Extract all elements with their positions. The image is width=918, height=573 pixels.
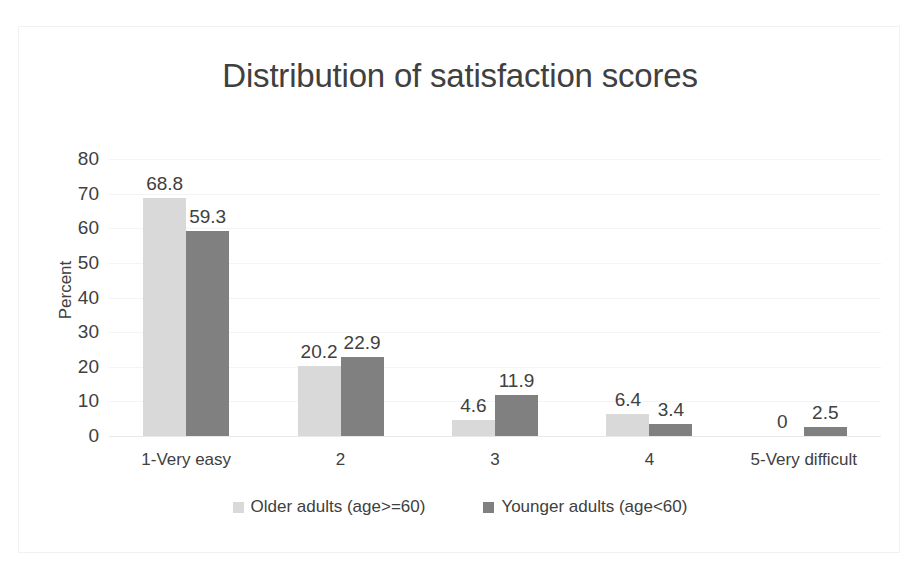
legend-label: Younger adults (age<60) [501,497,687,517]
bar-older[interactable]: 20.2 [298,366,341,436]
y-axis-tick-label: 80 [78,148,99,170]
legend-label: Older adults (age>=60) [251,497,426,517]
y-axis-tick-label: 70 [78,183,99,205]
bar-older[interactable]: 6.4 [606,414,649,436]
bar-value-label: 6.4 [615,389,641,411]
bar-group: 20.222.92 [263,159,417,436]
legend-item[interactable]: Younger adults (age<60) [483,497,687,517]
bar-value-label: 22.9 [344,332,381,354]
bar-younger[interactable]: 3.4 [649,424,692,436]
gridline [109,436,881,437]
bar-value-label: 20.2 [301,341,338,363]
bar-value-label: 68.8 [146,173,183,195]
y-axis-tick-label: 50 [78,252,99,274]
chart-legend: Older adults (age>=60)Younger adults (ag… [19,497,901,517]
bar-group: 4.611.93 [418,159,572,436]
bar-older[interactable]: 68.8 [143,198,186,436]
bar-younger[interactable]: 2.5 [804,427,847,436]
x-axis-category-label: 5-Very difficult [751,450,857,470]
legend-swatch-icon [233,502,244,513]
bar-group: 02.55-Very difficult [727,159,881,436]
x-axis-category-label: 1-Very easy [141,450,231,470]
chart-title: Distribution of satisfaction scores [19,57,901,95]
bar-value-label: 59.3 [189,206,226,228]
bar-younger[interactable]: 59.3 [186,231,229,436]
bar-value-label: 3.4 [658,399,684,421]
chart-container: Distribution of satisfaction scores Perc… [18,26,900,553]
bar-older[interactable]: 4.6 [452,420,495,436]
y-axis-tick-label: 20 [78,356,99,378]
bar-younger[interactable]: 22.9 [341,357,384,436]
plot-area: 80706050403020100 68.859.31-Very easy20.… [109,159,881,436]
bar-group-bars: 4.611.9 [418,159,572,436]
legend-item[interactable]: Older adults (age>=60) [233,497,426,517]
bar-younger[interactable]: 11.9 [495,395,538,436]
x-axis-category-label: 4 [645,450,654,470]
bar-group: 68.859.31-Very easy [109,159,263,436]
bar-value-label: 11.9 [499,370,535,392]
y-axis-tick-label: 60 [78,217,99,239]
bar-group: 6.43.44 [572,159,726,436]
y-axis-tick-label: 10 [78,390,99,412]
bar-value-label: 0 [777,411,788,433]
y-axis-tick-label: 0 [88,425,99,447]
bar-group-bars: 20.222.9 [263,159,417,436]
y-axis-tick-label: 30 [78,321,99,343]
legend-swatch-icon [483,502,494,513]
bar-value-label: 4.6 [460,395,486,417]
y-axis-title: Percent [56,230,76,350]
bar-value-label: 2.5 [812,402,838,424]
bar-group-bars: 02.5 [727,159,881,436]
bar-group-bars: 6.43.4 [572,159,726,436]
y-axis-tick-label: 40 [78,287,99,309]
bar-group-bars: 68.859.3 [109,159,263,436]
x-axis-category-label: 3 [490,450,499,470]
x-axis-category-label: 2 [336,450,345,470]
